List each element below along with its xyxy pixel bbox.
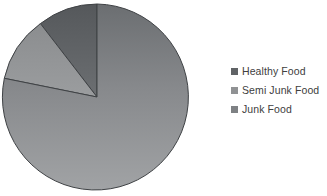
legend-item-label: Healthy Food — [242, 65, 306, 77]
legend-item-label: Junk Food — [242, 103, 292, 115]
pie-chart-figure: Healthy Food Semi Junk Food Junk Food — [0, 0, 327, 196]
pie-svg — [0, 0, 196, 196]
legend-item-semi-junk-food[interactable]: Semi Junk Food — [231, 83, 327, 97]
chart-legend: Healthy Food Semi Junk Food Junk Food — [231, 64, 327, 116]
legend-item-junk-food[interactable]: Junk Food — [231, 102, 327, 116]
legend-swatch-icon — [231, 106, 238, 113]
legend-swatch-icon — [231, 68, 238, 75]
pie-plot-area — [0, 0, 196, 196]
legend-item-healthy-food[interactable]: Healthy Food — [231, 64, 327, 78]
legend-swatch-icon — [231, 87, 238, 94]
legend-item-label: Semi Junk Food — [242, 84, 319, 96]
